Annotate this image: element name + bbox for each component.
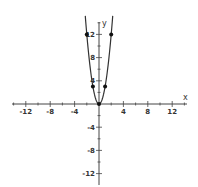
y-tick-label: 8 <box>90 54 95 62</box>
data-point <box>91 85 95 89</box>
y-tick-label: -12 <box>82 170 95 178</box>
x-tick-label: -8 <box>46 108 54 116</box>
data-point <box>109 32 113 36</box>
x-tick-label: 8 <box>145 108 150 116</box>
y-axis-label: y <box>102 19 107 28</box>
data-point <box>85 32 89 36</box>
x-tick-label: -4 <box>71 108 79 116</box>
y-tick-label: -8 <box>87 147 95 155</box>
data-point <box>103 85 107 89</box>
x-tick-label: -12 <box>19 108 32 116</box>
y-tick-label: -4 <box>87 124 95 132</box>
parabola-plot: -12-8-44812-12-8-44812 x y <box>0 0 198 187</box>
x-axis-label: x <box>183 93 188 102</box>
data-point <box>97 102 101 106</box>
x-tick-label: 4 <box>121 108 126 116</box>
x-tick-label: 12 <box>167 108 177 116</box>
